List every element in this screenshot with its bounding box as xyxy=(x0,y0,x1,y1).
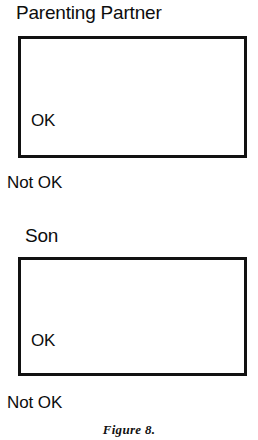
panel-label-ok-son: OK xyxy=(31,332,55,349)
panel-title-parenting-partner: Parenting Partner xyxy=(16,3,162,22)
panel-box-son xyxy=(18,257,247,376)
panel-label-not-ok-son: Not OK xyxy=(7,394,62,411)
panel-label-ok-parenting-partner: OK xyxy=(31,112,55,129)
panel-label-not-ok-parenting-partner: Not OK xyxy=(7,174,62,191)
figure-diagram: Parenting Partner OK Not OK Son OK Not O… xyxy=(0,0,258,440)
panel-box-parenting-partner xyxy=(18,36,247,158)
figure-caption: Figure 8. xyxy=(0,422,258,438)
panel-title-son: Son xyxy=(25,226,58,245)
